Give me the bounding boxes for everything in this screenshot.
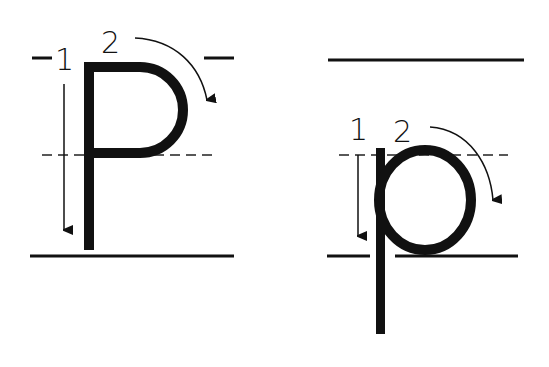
- lowercase-p-panel: 1 2: [327, 60, 524, 334]
- step-1-number: 1: [349, 112, 368, 147]
- step-2-number: 2: [393, 114, 412, 149]
- uppercase-p-panel: 1 2: [30, 25, 234, 256]
- letter-uppercase-p: [84, 62, 183, 250]
- letter-lowercase-p: [376, 148, 471, 334]
- diagram-canvas: 1 2 1 2: [0, 0, 549, 367]
- step-2-number: 2: [101, 25, 120, 60]
- step-1-number: 1: [55, 42, 74, 77]
- letter-formation-diagram: 1 2 1 2: [0, 0, 549, 367]
